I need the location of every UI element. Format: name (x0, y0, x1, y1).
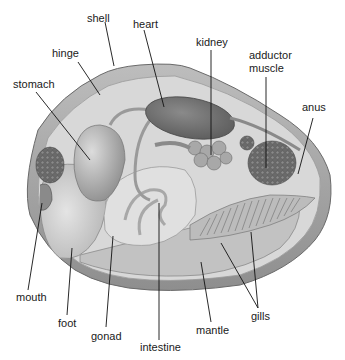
label-gills: gills (251, 310, 270, 322)
label-hinge: hinge (52, 47, 79, 59)
anterior-adductor-illustration (36, 147, 64, 183)
label-mantle: mantle (196, 324, 229, 336)
clam-anatomy-diagram: shell heart hinge kidney adductor muscle… (0, 0, 345, 360)
label-heart: heart (133, 18, 158, 30)
label-kidney: kidney (196, 36, 228, 48)
label-stomach: stomach (13, 78, 55, 90)
label-gonad: gonad (91, 330, 122, 342)
label-intestine: intestine (140, 341, 181, 353)
label-adductor-line1: adductor (249, 49, 292, 61)
label-shell: shell (87, 12, 110, 24)
label-anus: anus (302, 101, 326, 113)
label-mouth: mouth (16, 291, 47, 303)
label-adductor-line2: muscle (249, 62, 284, 74)
label-foot: foot (58, 317, 76, 329)
